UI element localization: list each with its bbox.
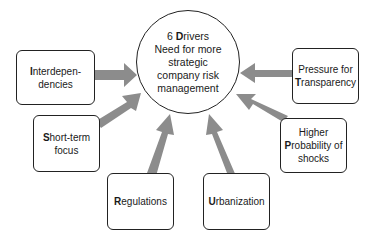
driver-regulations: Regulations (107, 173, 174, 230)
driver-urbanization: Urbanization (203, 173, 270, 230)
arrow-short-term (96, 93, 141, 128)
driver-pressure-for-transparency: Pressure forTransparency (292, 48, 359, 104)
driver-short-term-focus: Short-termfocus (33, 115, 100, 172)
arrow-higher-probability (236, 94, 288, 122)
arrow-urbanization (206, 114, 236, 176)
central-hub: 6 Drivers Need for more strategic compan… (136, 10, 240, 114)
driver-higher-probability-of-shocks: HigherProbability ofshocks (280, 118, 347, 173)
arrow-pressure (240, 63, 292, 83)
arrow-interdependencies (95, 63, 137, 87)
driver-interdependencies: Interdepen-dencies (16, 50, 95, 105)
arrow-regulations (147, 114, 174, 176)
